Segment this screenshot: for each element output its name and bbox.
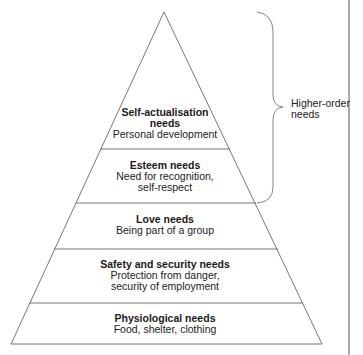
level-description: Food, shelter, clothing [70,324,260,335]
higher-order-needs-label: Higher-order needs [291,98,350,120]
level-safety: Safety and security needs Protection fro… [70,259,260,292]
curly-brace [257,12,283,203]
level-love: Love needs Being part of a group [90,214,240,236]
level-self-actualisation: Self-actualisation needs Personal develo… [100,107,230,140]
level-esteem: Esteem needs Need for recognition, self-… [90,160,240,193]
level-description: security of employment [70,281,260,292]
level-description: self-respect [90,182,240,193]
level-description: Personal development [100,129,230,140]
brace-label-line: needs [291,109,350,120]
level-description: Being part of a group [90,225,240,236]
level-physiological: Physiological needs Food, shelter, cloth… [70,313,260,335]
